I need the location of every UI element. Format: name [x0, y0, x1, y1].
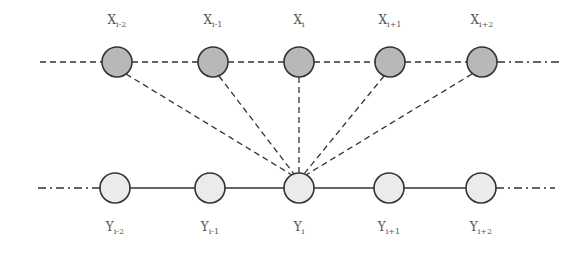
label-x-i-1: Xi-1: [204, 13, 223, 29]
node-x-i-1: [198, 47, 228, 77]
node-x-i: [284, 47, 314, 77]
edge-x-i-2-to-y-i: [126, 74, 292, 175]
label-x-i: Xi: [293, 13, 304, 29]
label-x-i+2: Xi+2: [471, 13, 494, 29]
label-y-i+1: Yi+1: [378, 220, 400, 236]
node-y-i+2: [466, 173, 496, 203]
node-y-i+1: [374, 173, 404, 203]
node-y-i-2: [100, 173, 130, 203]
node-x-i-2: [102, 47, 132, 77]
label-y-i: Yi: [294, 220, 304, 236]
node-y-i-1: [195, 173, 225, 203]
edge-x-i-1-to-y-i: [219, 76, 294, 174]
node-x-i+1: [375, 47, 405, 77]
label-y-i+2: Yi+2: [470, 220, 492, 236]
label-x-i-2: Xi-2: [108, 13, 127, 29]
label-y-i-2: Yi-2: [106, 220, 124, 236]
node-x-i+2: [467, 47, 497, 77]
label-y-i-1: Yi-1: [201, 220, 219, 236]
diagram-graphics: [0, 0, 585, 256]
node-y-i: [284, 173, 314, 203]
edge-x-i+2-to-y-i: [306, 74, 472, 175]
edge-x-i+1-to-y-i: [304, 76, 384, 174]
label-x-i+1: Xi+1: [379, 13, 402, 29]
crf-diagram: Xi-2 Xi-1 Xi Xi+1 Xi+2 Yi-2 Yi-1 Yi Yi+1…: [0, 0, 585, 256]
